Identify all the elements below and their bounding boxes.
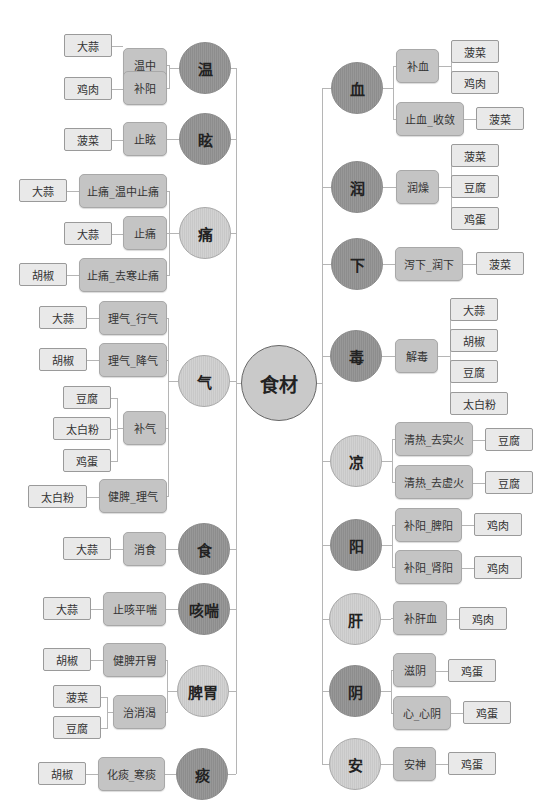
connector-line [167, 139, 169, 140]
ingredient-leaf[interactable]: 胡椒 [43, 648, 91, 671]
connector-line [117, 398, 118, 462]
ingredient-leaf[interactable]: 太白粉 [28, 485, 87, 508]
connector-line [168, 609, 178, 610]
branch-item[interactable]: 止咳平喘 [103, 592, 166, 626]
ingredient-leaf[interactable]: 鸡蛋 [451, 207, 499, 230]
category-node-tan[interactable]: 痰 [176, 748, 228, 800]
connector-line [383, 264, 393, 265]
branch-item[interactable]: 解毒 [395, 339, 438, 373]
ingredient-leaf[interactable]: 大蒜 [43, 597, 91, 620]
branch-item[interactable]: 滋阴 [393, 653, 436, 687]
category-node-xuan[interactable]: 眩 [179, 113, 231, 165]
branch-item[interactable]: 补阳_脾阳 [395, 508, 462, 542]
ingredient-leaf[interactable]: 菠菜 [451, 40, 499, 63]
ingredient-leaf[interactable]: 豆腐 [485, 471, 533, 494]
branch-item[interactable]: 理气_降气 [99, 343, 167, 377]
ingredient-leaf[interactable]: 豆腐 [53, 716, 101, 739]
ingredient-leaf[interactable]: 豆腐 [451, 175, 499, 198]
ingredient-leaf[interactable]: 鸡肉 [459, 607, 507, 630]
ingredient-leaf[interactable]: 豆腐 [63, 386, 111, 409]
branch-item[interactable]: 补阳 [123, 71, 167, 105]
connector-line [167, 318, 168, 319]
ingredient-leaf[interactable]: 菠菜 [451, 144, 499, 167]
ingredient-leaf[interactable]: 鸡蛋 [448, 752, 496, 775]
connector-line [228, 774, 236, 775]
ingredient-leaf[interactable]: 胡椒 [38, 762, 86, 785]
ingredient-leaf[interactable]: 豆腐 [450, 360, 498, 383]
category-node-shi[interactable]: 食 [178, 523, 230, 575]
connector-line [111, 429, 117, 430]
branch-item[interactable]: 健脾_理气 [99, 479, 167, 513]
category-node-yang[interactable]: 阳 [330, 519, 382, 571]
ingredient-leaf[interactable]: 太白粉 [53, 417, 111, 440]
ingredient-leaf[interactable]: 菠菜 [476, 107, 524, 130]
ingredient-leaf[interactable]: 太白粉 [450, 392, 508, 415]
ingredient-leaf[interactable]: 大蒜 [39, 306, 87, 329]
ingredient-leaf[interactable]: 鸡蛋 [463, 701, 511, 724]
branch-item[interactable]: 心_心阴 [393, 696, 451, 730]
category-node-yin[interactable]: 阴 [329, 665, 381, 717]
branch-item[interactable]: 补肝血 [393, 601, 447, 635]
branch-item[interactable]: 化痰_寒痰 [98, 757, 165, 791]
category-node-xia[interactable]: 下 [331, 238, 383, 290]
connector-line [322, 356, 330, 357]
branch-item[interactable]: 健脾开胃 [103, 643, 166, 677]
connector-line [167, 660, 168, 713]
root-node[interactable]: 食材 [241, 345, 317, 421]
ingredient-leaf[interactable]: 大蒜 [19, 179, 67, 202]
branch-item[interactable]: 止眩 [123, 122, 167, 156]
ingredient-leaf[interactable]: 鸡肉 [64, 77, 112, 100]
category-node-kechuan[interactable]: 咳喘 [178, 583, 230, 635]
connector-line [322, 691, 329, 692]
connector-line [451, 713, 463, 714]
category-node-qi[interactable]: 气 [178, 355, 230, 407]
ingredient-leaf[interactable]: 菠菜 [64, 128, 112, 151]
category-node-tong[interactable]: 痛 [179, 207, 231, 259]
connector-line [322, 545, 330, 546]
connector-line [463, 264, 476, 265]
branch-item[interactable]: 治消渴 [113, 695, 166, 729]
branch-item[interactable]: 泻下_润下 [395, 247, 463, 281]
connector-line [87, 360, 99, 361]
ingredient-leaf[interactable]: 豆腐 [485, 428, 533, 451]
branch-item[interactable]: 补阳_肾阳 [395, 550, 462, 584]
ingredient-leaf[interactable]: 鸡肉 [474, 556, 522, 579]
branch-item[interactable]: 补气 [123, 411, 166, 445]
ingredient-leaf[interactable]: 大蒜 [64, 34, 112, 57]
ingredient-leaf[interactable]: 胡椒 [19, 263, 67, 286]
connector-line [322, 88, 323, 764]
category-node-xue[interactable]: 血 [331, 62, 383, 114]
ingredient-leaf[interactable]: 胡椒 [450, 329, 498, 352]
ingredient-leaf[interactable]: 鸡肉 [451, 71, 499, 94]
branch-item[interactable]: 清热_去实火 [395, 422, 473, 456]
branch-item[interactable]: 止痛_温中止痛 [79, 174, 167, 208]
branch-item[interactable]: 清热_去虚火 [395, 465, 473, 499]
category-node-run[interactable]: 润 [331, 161, 383, 213]
ingredient-leaf[interactable]: 胡椒 [39, 348, 87, 371]
branch-item[interactable]: 润燥 [396, 170, 439, 204]
category-node-wen[interactable]: 温 [179, 42, 231, 94]
branch-item[interactable]: 安神 [393, 747, 436, 781]
connector-line [231, 233, 236, 234]
ingredient-leaf[interactable]: 鸡蛋 [448, 659, 496, 682]
ingredient-leaf[interactable]: 大蒜 [64, 222, 112, 245]
branch-item[interactable]: 止痛_去寒止痛 [79, 258, 167, 292]
branch-item[interactable]: 理气_行气 [99, 301, 167, 335]
category-node-liang[interactable]: 凉 [330, 435, 382, 487]
category-node-piwei[interactable]: 脾胃 [177, 665, 229, 717]
ingredient-leaf[interactable]: 鸡肉 [474, 513, 522, 536]
ingredient-leaf[interactable]: 大蒜 [450, 298, 498, 321]
ingredient-leaf[interactable]: 菠菜 [476, 252, 524, 275]
connector-line [167, 233, 169, 234]
ingredient-leaf[interactable]: 大蒜 [63, 537, 111, 560]
category-node-an[interactable]: 安 [329, 738, 381, 790]
ingredient-leaf[interactable]: 鸡蛋 [63, 449, 111, 472]
ingredient-leaf[interactable]: 菠菜 [53, 685, 101, 708]
category-node-gan[interactable]: 肝 [329, 593, 381, 645]
category-node-du[interactable]: 毒 [330, 330, 382, 382]
branch-item[interactable]: 止血_收敛 [396, 102, 464, 136]
branch-item[interactable]: 补血 [396, 49, 439, 83]
branch-item[interactable]: 止痛 [123, 216, 167, 250]
branch-item[interactable]: 消食 [123, 532, 166, 566]
connector-line [169, 139, 179, 140]
